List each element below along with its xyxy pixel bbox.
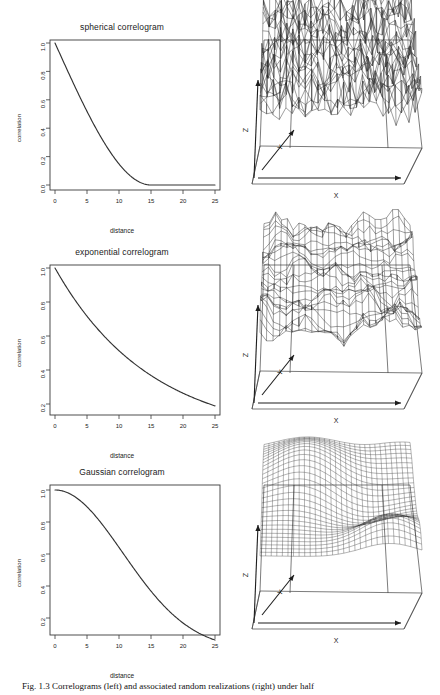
x-tick-label: 15	[148, 643, 155, 649]
x-tick-label: 0	[53, 423, 57, 429]
x-tick-label: 10	[116, 643, 123, 649]
y-tick-label: 0.2	[40, 156, 46, 165]
x-tick-label: 5	[85, 423, 89, 429]
y-tick-label: 0.2	[40, 617, 46, 626]
panel-row-gaussian: Gaussian correlogram correlation distanc…	[0, 463, 440, 683]
x-tick-label: 0	[53, 643, 57, 649]
chart-gaussian-correlogram: Gaussian correlogram correlation distanc…	[8, 463, 236, 683]
y-tick-label: 0.4	[40, 585, 46, 594]
y-axis-label-exponential: correlation	[16, 318, 22, 388]
chart-svg-exponential: 1.0 0.8 0.6 0.4 0.2 0 5 10 15	[8, 243, 236, 463]
chart-exponential-correlogram: exponential correlogram correlation dist…	[8, 243, 236, 463]
surface-mesh-spherical	[260, 0, 422, 126]
y-tick-label: 0.6	[40, 99, 46, 108]
figure-panel: spherical correlogram correlation distan…	[0, 0, 440, 695]
y-tick-label: 0.8	[40, 301, 46, 310]
x-tick-label: 20	[180, 198, 187, 204]
surface-exponential-random-field: X Z Y	[236, 243, 440, 463]
surface-frame-gaussian	[252, 485, 422, 629]
data-curve-exponential	[55, 268, 215, 406]
y-axis-label-gaussian: correlation	[16, 538, 22, 608]
surface-z-label-exponential: Z	[242, 352, 249, 357]
x-axis-ticks-exponential: 0 5 10 15 20 25	[53, 415, 219, 429]
y-tick-label: 0.8	[40, 521, 46, 530]
surface-x-label-spherical: X	[334, 192, 339, 199]
y-tick-label: 0.4	[40, 369, 46, 378]
surface-gaussian-random-field: X Z Y	[236, 463, 440, 683]
y-axis-label-spherical: correlation	[16, 93, 22, 163]
x-tick-label: 5	[85, 198, 89, 204]
surface-x-label-exponential: X	[334, 417, 339, 424]
y-tick-label: 0.2	[40, 403, 46, 412]
x-tick-label: 5	[85, 643, 89, 649]
y-tick-label: 0.6	[40, 335, 46, 344]
y-tick-label: 1.0	[40, 42, 46, 51]
chart-svg-spherical: 1.0 0.8 0.6 0.4 0.2 0.0 0 5	[8, 18, 236, 238]
x-tick-label: 15	[148, 423, 155, 429]
surface-spherical-random-field: X Z Y	[236, 18, 440, 238]
panel-row-spherical: spherical correlogram correlation distan…	[0, 18, 440, 238]
x-tick-label: 15	[148, 198, 155, 204]
x-tick-label: 25	[212, 198, 219, 204]
x-tick-label: 10	[116, 198, 123, 204]
y-axis-ticks-gaussian: 1.0 0.8 0.6 0.4 0.2	[40, 489, 50, 626]
x-axis-label-exponential: distance	[8, 452, 236, 459]
y-tick-label: 0.4	[40, 128, 46, 137]
x-axis-label-spherical: distance	[8, 227, 236, 234]
x-tick-label: 20	[180, 423, 187, 429]
data-curve-gaussian	[55, 490, 215, 640]
y-tick-label: 0.8	[40, 71, 46, 80]
x-tick-label: 20	[180, 643, 187, 649]
x-axis-ticks-gaussian: 0 5 10 15 20 25	[53, 635, 219, 649]
x-tick-label: 25	[212, 423, 219, 429]
surface-svg-gaussian: X Z Y	[236, 463, 440, 683]
surface-z-label-gaussian: Z	[242, 572, 249, 577]
y-axis-ticks-exponential: 1.0 0.8 0.6 0.4 0.2	[40, 267, 50, 412]
figure-caption: Fig. 1.3 Correlograms (left) and associa…	[22, 681, 422, 695]
x-tick-label: 0	[53, 198, 57, 204]
y-tick-label: 1.0	[40, 489, 46, 498]
surface-svg-exponential: X Z Y	[236, 243, 440, 463]
y-tick-label: 0.6	[40, 553, 46, 562]
surface-z-label-spherical: Z	[242, 127, 249, 132]
x-axis-ticks-spherical: 0 5 10 15 20 25	[53, 190, 219, 204]
surface-axes-spherical	[254, 80, 401, 181]
surface-x-label-gaussian: X	[334, 637, 339, 644]
y-tick-label: 1.0	[40, 267, 46, 276]
x-tick-label: 25	[212, 643, 219, 649]
surface-svg-spherical: X Z Y	[236, 18, 440, 238]
surface-axes-gaussian	[254, 525, 401, 626]
chart-title-spherical: spherical correlogram	[8, 22, 236, 32]
chart-spherical-correlogram: spherical correlogram correlation distan…	[8, 18, 236, 238]
x-axis-label-gaussian: distance	[8, 672, 236, 679]
x-tick-label: 10	[116, 423, 123, 429]
chart-svg-gaussian: 1.0 0.8 0.6 0.4 0.2 0 5 10 15	[8, 463, 236, 683]
surface-frame-spherical	[252, 40, 422, 184]
chart-title-exponential: exponential correlogram	[8, 247, 236, 257]
panel-row-exponential: exponential correlogram correlation dist…	[0, 243, 440, 463]
y-axis-ticks-spherical: 1.0 0.8 0.6 0.4 0.2 0.0	[40, 42, 50, 193]
chart-title-gaussian: Gaussian correlogram	[8, 467, 236, 477]
surface-axes-exponential	[254, 305, 401, 406]
y-tick-label: 0.0	[40, 184, 46, 193]
data-curve-spherical	[55, 43, 215, 185]
